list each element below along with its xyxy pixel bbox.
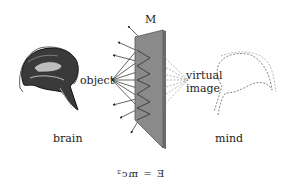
virtual-rays	[163, 56, 188, 106]
mirrored-equation: E = mc²	[116, 168, 164, 179]
incident-rays	[112, 50, 137, 106]
mind-outline-icon	[214, 52, 276, 115]
brain-caption: brain	[53, 133, 82, 145]
object-label: object	[80, 75, 114, 87]
mirror-panel	[135, 30, 166, 149]
mirror-label: M	[145, 14, 156, 26]
brain-icon	[20, 47, 79, 110]
image-label: image	[186, 83, 220, 95]
virtual-label: virtual	[186, 70, 223, 82]
diagram-canvas	[0, 0, 288, 194]
mind-caption: mind	[215, 133, 243, 145]
